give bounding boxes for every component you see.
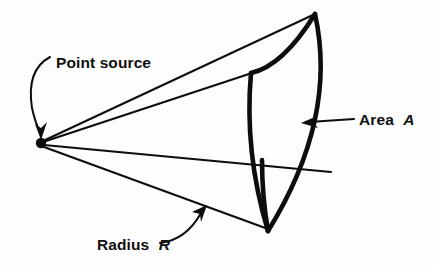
upper-near-ray [43,73,252,142]
area-label-prefix: Area [359,111,394,128]
upper-far-ray [43,14,315,141]
radius-label-symbol: R [159,236,171,253]
radius-label-prefix: Radius [97,236,149,253]
point-source-label: Point source [56,54,151,71]
area-label: Area A [359,111,415,128]
area-label-symbol: A [402,111,414,128]
cap-top-arc [251,14,315,73]
radius-annotation: Radius R [97,205,207,253]
radius-arrowhead [192,205,207,222]
lower-ray [44,147,268,229]
radius-label: Radius R [97,236,171,253]
solid-angle-diagram: Point source Area A Radius R [0,0,433,266]
center-ray [44,145,331,172]
point-source-leader-line [31,57,50,132]
